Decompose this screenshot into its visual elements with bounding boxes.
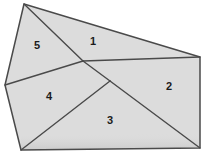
region-label-2: 2	[166, 80, 172, 92]
geometry-figure: 1 2 3 4 5	[0, 0, 205, 161]
figure-canvas: 1 2 3 4 5	[0, 0, 205, 161]
region-label-5: 5	[34, 39, 40, 51]
region-label-1: 1	[90, 35, 96, 47]
bottom-shadow-band	[21, 133, 200, 150]
region-label-3: 3	[107, 114, 113, 126]
region-group	[5, 4, 200, 150]
region-label-4: 4	[46, 90, 53, 102]
